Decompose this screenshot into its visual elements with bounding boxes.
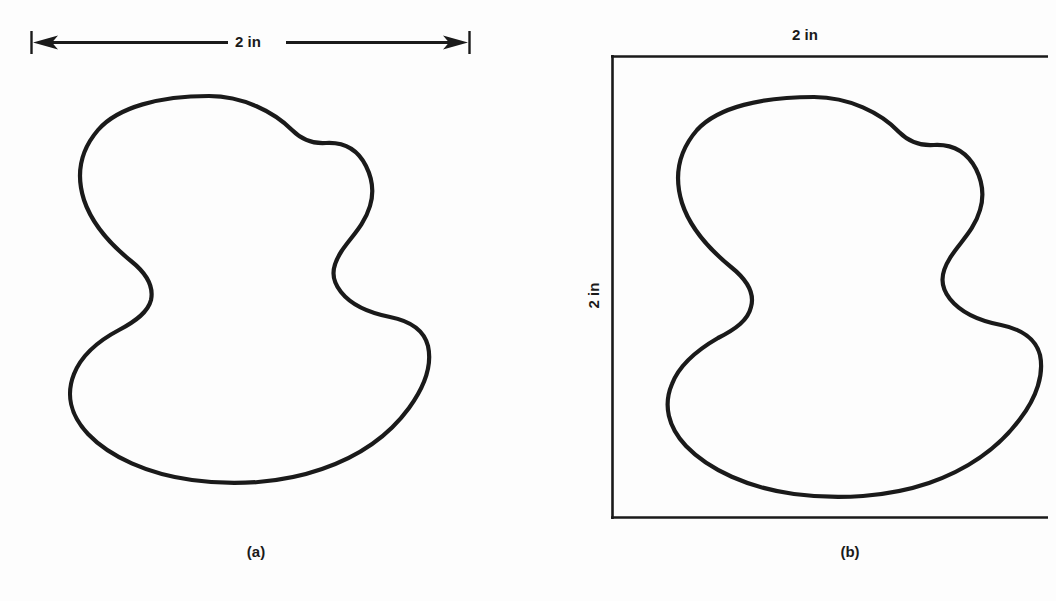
panel-caption-a: (a) xyxy=(247,543,265,560)
panel-caption-b: (b) xyxy=(840,543,859,560)
reference-frame-b xyxy=(611,55,1048,519)
dimension-label-b-height: 2 in xyxy=(585,283,602,309)
dimension-label-b-width: 2 in xyxy=(792,26,818,43)
panel-b xyxy=(611,55,1048,519)
blob-outline-a xyxy=(70,96,429,483)
blob-outline-b xyxy=(668,97,1041,497)
panel-a xyxy=(32,31,470,483)
figure-root: 2 in 2 in 2 in (a) (b) xyxy=(0,0,1056,601)
figure-canvas xyxy=(0,0,1056,601)
dimension-label-a-width: 2 in xyxy=(228,33,268,50)
